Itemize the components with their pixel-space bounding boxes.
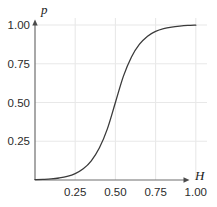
y-tick-label-0.50: 0.50 bbox=[8, 97, 30, 109]
y-tick-label-1.00: 1.00 bbox=[8, 19, 30, 31]
x-axis-arrow-icon bbox=[184, 177, 190, 182]
x-tick-labels: 0.25 0.50 0.75 1.00 bbox=[64, 186, 207, 198]
x-axis-label: H bbox=[194, 168, 205, 183]
sigmoid-chart-figure: 1.00 0.75 0.50 0.25 0.25 0.50 0.75 1.00 … bbox=[0, 0, 217, 207]
y-tick-label-0.75: 0.75 bbox=[8, 58, 30, 70]
y-tick-labels: 1.00 0.75 0.50 0.25 bbox=[8, 19, 30, 147]
axis-lines bbox=[32, 20, 189, 183]
chart-canvas: 1.00 0.75 0.50 0.25 0.25 0.50 0.75 1.00 … bbox=[0, 0, 217, 207]
y-axis-arrow-icon bbox=[32, 20, 37, 26]
x-tick-label-0.50: 0.50 bbox=[104, 186, 126, 198]
x-tick-label-0.25: 0.25 bbox=[64, 186, 86, 198]
y-tick-label-0.25: 0.25 bbox=[8, 135, 30, 147]
x-tick-label-1.00: 1.00 bbox=[185, 186, 207, 198]
y-axis-label: p bbox=[40, 2, 48, 17]
gridlines bbox=[35, 18, 207, 180]
x-tick-label-0.75: 0.75 bbox=[144, 186, 166, 198]
